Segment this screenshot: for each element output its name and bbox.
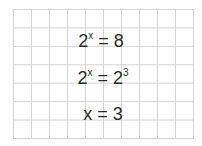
graph-paper-grid: 2x = 8 2x = 23 x = 3 (13, 9, 194, 139)
equation-base: 2 (77, 68, 87, 88)
equation-rhs: 2 (113, 68, 123, 88)
equals-sign: = (97, 68, 108, 88)
equation-base: 2 (78, 31, 88, 51)
equation-line-3: x = 3 (13, 104, 193, 124)
equation-rhs: 3 (113, 104, 123, 124)
equation-exponent: x (88, 30, 93, 41)
equation-rhs-exponent: 3 (123, 67, 129, 78)
equation-line-1: 2x = 8 (11, 31, 191, 54)
equals-sign: = (97, 104, 108, 124)
equation-exponent: x (87, 67, 92, 78)
equation-line-2: 2x = 23 (13, 68, 193, 91)
equals-sign: = (98, 31, 109, 51)
equation-rhs: 8 (114, 31, 124, 51)
equation-variable: x (83, 104, 92, 124)
